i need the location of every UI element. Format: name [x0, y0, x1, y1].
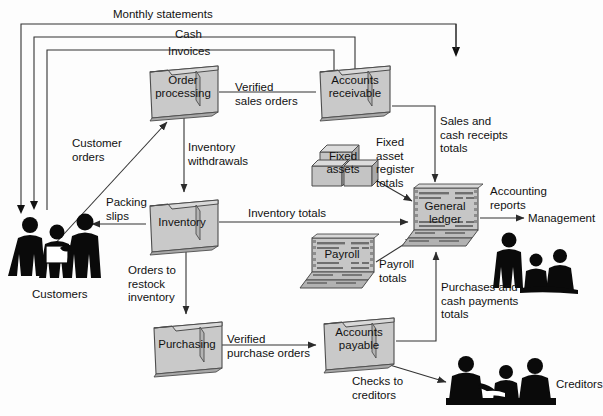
- node-label-inventory: Inventory: [150, 216, 214, 229]
- diagram-canvas: Orderprocessing Accountsreceivable Fixed…: [0, 0, 603, 416]
- flow-label-inventory-withdrawals: Inventorywithdrawals: [188, 141, 248, 168]
- node-label-payroll: Payroll: [313, 248, 371, 261]
- flow-label-packing-slips: Packingslips: [106, 196, 147, 223]
- flow-label-verified-sales-orders: Verifiedsales orders: [235, 81, 298, 108]
- flow-label-verified-purchase-orders: Verifiedpurchase orders: [227, 333, 310, 360]
- flow-label-payroll-totals: Payrolltotals: [379, 258, 414, 285]
- node-label-purchasing: Purchasing: [153, 338, 221, 351]
- flow-label-orders-to-restock: Orders torestockinventory: [128, 264, 176, 305]
- actor-label-creditors: Creditors: [556, 378, 603, 392]
- flow-label-customer-orders: Customerorders: [72, 137, 122, 164]
- node-label-accounts-receivable: Accountsreceivable: [322, 74, 388, 100]
- flow-label-invoices: Invoices: [168, 45, 210, 59]
- flow-label-monthly-statements: Monthly statements: [113, 8, 213, 22]
- node-label-general-ledger: Generalledger: [414, 200, 476, 226]
- flow-cash: [34, 37, 355, 201]
- flow-label-sales-cash-receipts: Sales andcash receiptstotals: [440, 115, 508, 156]
- ledger-icon: [300, 234, 379, 288]
- people-group-icon: [446, 356, 556, 405]
- actor-label-customers: Customers: [32, 288, 88, 302]
- flow-label-accounting-reports: Accountingreports: [490, 185, 547, 212]
- actor-label-management: Management: [528, 212, 595, 226]
- arrow-into-accounts-receivable: [452, 24, 460, 57]
- people-group-icon: [8, 214, 101, 279]
- arrow-monthly-statements-head: [17, 205, 25, 214]
- flow-label-purchases-cash-payments: Purchases andcash paymentstotals: [441, 281, 518, 322]
- flow-label-inventory-totals: Inventory totals: [248, 207, 326, 221]
- flow-label-cash: Cash: [175, 28, 202, 42]
- flow-label-fixed-asset-register: Fixedassetregistertotals: [376, 136, 414, 190]
- node-label-order-processing: Orderprocessing: [152, 74, 214, 100]
- arrow-cash-head: [30, 201, 38, 210]
- node-label-fixed-assets: Fixedassets: [317, 150, 369, 176]
- flow-label-checks-to-creditors: Checks tocreditors: [352, 375, 403, 402]
- node-label-accounts-payable: Accountspayable: [326, 326, 392, 352]
